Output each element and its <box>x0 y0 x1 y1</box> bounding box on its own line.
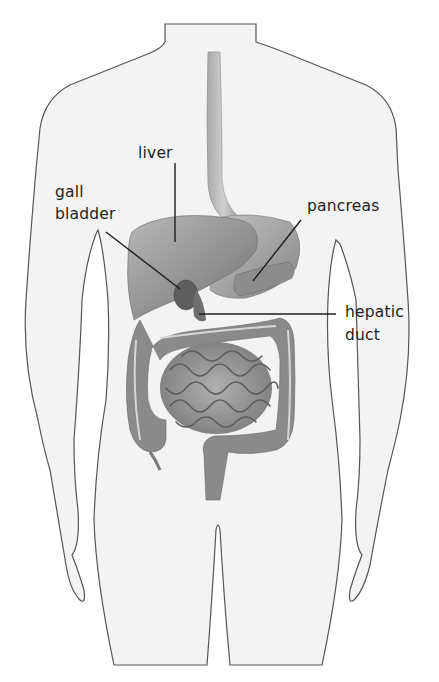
label-gall-bladder-line1: gall <box>55 183 84 202</box>
label-hepatic-duct-line2: duct <box>345 326 380 345</box>
label-pancreas: pancreas <box>307 197 379 216</box>
label-liver: liver <box>138 144 173 163</box>
label-hepatic-duct-line1: hepatic <box>345 303 404 322</box>
label-gall-bladder-line2: bladder <box>55 205 116 224</box>
